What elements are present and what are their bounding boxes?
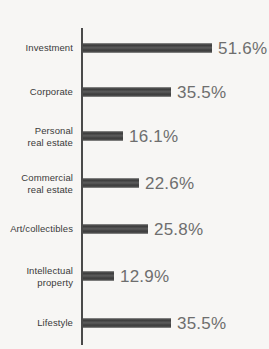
category-label: Art/collectibles [0, 223, 73, 235]
bar-group: 25.8% [83, 225, 203, 234]
bar-rows-container: Investment 51.6% Corporate 35.5% Persona… [0, 0, 269, 349]
bar-group: 35.5% [83, 319, 226, 328]
value-label-lifestyle: 35.5% [177, 315, 226, 332]
bar-group: 22.6% [83, 179, 194, 188]
category-label: Investment [0, 42, 73, 54]
value-label-art-collectibles: 25.8% [154, 221, 203, 238]
bar-lifestyle [83, 319, 171, 328]
bar-commercial-real-estate [83, 179, 139, 188]
value-label-personal-real-estate: 16.1% [129, 128, 178, 145]
bar-row: Intellectual property 12.9% [0, 254, 269, 298]
bar-group: 16.1% [83, 132, 178, 141]
category-label: Commercial real estate [0, 172, 73, 195]
bar-row: Corporate 35.5% [0, 70, 269, 114]
value-label-intellectual-property: 12.9% [120, 268, 169, 285]
bar-group: 51.6% [83, 44, 267, 53]
bar-row: Investment 51.6% [0, 26, 269, 70]
bar-group: 35.5% [83, 88, 226, 97]
bar-row: Commercial real estate 22.6% [0, 161, 269, 205]
bar-intellectual-property [83, 272, 114, 281]
bar-group: 12.9% [83, 272, 169, 281]
bar-row: Lifestyle 35.5% [0, 301, 269, 345]
bar-corporate [83, 88, 171, 97]
bar-row: Art/collectibles 25.8% [0, 207, 269, 251]
category-label: Personal real estate [0, 125, 73, 148]
bar-row: Personal real estate 16.1% [0, 114, 269, 158]
value-label-investment: 51.6% [218, 40, 267, 57]
value-label-commercial-real-estate: 22.6% [145, 175, 194, 192]
bar-personal-real-estate [83, 132, 123, 141]
category-label: Corporate [0, 86, 73, 98]
bar-investment [83, 44, 212, 53]
category-label: Intellectual property [0, 265, 73, 288]
value-label-corporate: 35.5% [177, 84, 226, 101]
bar-art-collectibles [83, 225, 148, 234]
horizontal-bar-chart: Investment 51.6% Corporate 35.5% Persona… [0, 0, 269, 349]
category-label: Lifestyle [0, 317, 73, 329]
